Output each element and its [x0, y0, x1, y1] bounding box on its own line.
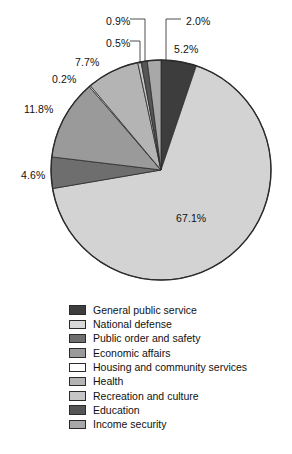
legend-label-national-defense: National defense [93, 319, 172, 330]
legend-swatch-national-defense [69, 320, 86, 330]
legend-item-economic-affairs[interactable]: Economic affairs [69, 346, 284, 360]
pct-label-housing-and-community-services: 0.2% [52, 74, 76, 85]
legend-item-housing-and-community-services[interactable]: Housing and community services [69, 360, 284, 374]
legend-label-income-security: Income security [93, 419, 167, 430]
legend-label-public-order-and-safety: Public order and safety [93, 333, 200, 344]
pct-label-education: 0.9% [106, 16, 130, 27]
pie-chart-figure: 0.9%2.0%0.5%5.2%7.7%0.2%11.8%4.6%67.1% G… [0, 0, 292, 454]
pct-label-public-order-and-safety: 4.6% [21, 170, 45, 181]
legend-swatch-health [69, 377, 86, 387]
legend-item-general-public-service[interactable]: General public service [69, 303, 284, 317]
pct-label-income-security: 2.0% [186, 16, 210, 27]
pct-label-national-defense: 67.1% [176, 213, 206, 224]
pie-slices-group [51, 60, 271, 280]
pct-label-economic-affairs: 11.8% [24, 104, 54, 115]
legend-label-economic-affairs: Economic affairs [93, 348, 170, 359]
pct-label-recreation-and-culture: 0.5% [106, 38, 130, 49]
legend-label-education: Education [93, 405, 140, 416]
legend-swatch-recreation-and-culture [69, 391, 86, 401]
legend-swatch-general-public-service [69, 305, 86, 315]
legend-swatch-education [69, 405, 86, 415]
pct-label-general-public-service: 5.2% [174, 44, 198, 55]
legend-label-general-public-service: General public service [93, 305, 197, 316]
legend-item-public-order-and-safety[interactable]: Public order and safety [69, 332, 284, 346]
legend-item-education[interactable]: Education [69, 403, 284, 417]
leader-education [130, 19, 145, 62]
pie-svg [0, 0, 292, 292]
leader-lines-group [130, 19, 181, 64]
legend-swatch-economic-affairs [69, 348, 86, 358]
legend-item-health[interactable]: Health [69, 374, 284, 388]
legend-label-recreation-and-culture: Recreation and culture [93, 391, 199, 402]
chart-legend: General public serviceNational defensePu… [69, 303, 284, 432]
legend-item-income-security[interactable]: Income security [69, 417, 284, 431]
leader-recreation-culture [130, 41, 140, 64]
legend-swatch-housing-and-community-services [69, 363, 86, 373]
legend-item-recreation-and-culture[interactable]: Recreation and culture [69, 389, 284, 403]
legend-swatch-income-security [69, 420, 86, 430]
legend-label-health: Health [93, 376, 123, 387]
legend-swatch-public-order-and-safety [69, 334, 86, 344]
pie-plot-area: 0.9%2.0%0.5%5.2%7.7%0.2%11.8%4.6%67.1% [0, 0, 292, 292]
legend-label-housing-and-community-services: Housing and community services [93, 362, 247, 373]
pct-label-health: 7.7% [75, 57, 99, 68]
legend-item-national-defense[interactable]: National defense [69, 317, 284, 331]
